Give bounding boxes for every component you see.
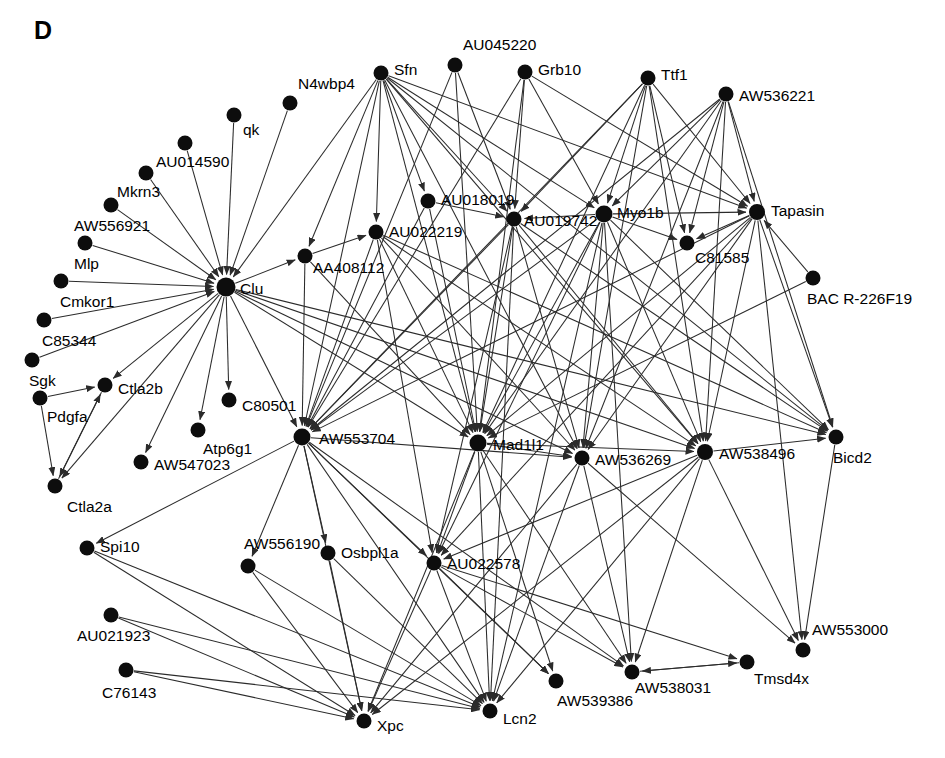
graph-node[interactable] [719, 87, 734, 102]
graph-node-label: Tapasin [771, 202, 824, 219]
graph-node[interactable] [740, 655, 755, 670]
graph-edge [584, 466, 630, 662]
graph-node[interactable] [222, 393, 237, 408]
graph-node-label: AW556190 [244, 535, 320, 552]
graph-node-label: AW536269 [595, 451, 671, 468]
graph-node-label: AW536221 [739, 87, 815, 104]
graph-node[interactable] [134, 455, 149, 470]
graph-node-label: N4wbp4 [298, 75, 355, 92]
graph-edge [134, 672, 354, 719]
graph-node[interactable] [25, 353, 40, 368]
graph-edge [235, 291, 573, 453]
graph-node[interactable] [369, 225, 384, 240]
graph-edge [709, 460, 799, 641]
graph-edge [235, 292, 469, 437]
graph-edge [697, 215, 750, 238]
graph-node[interactable] [119, 663, 134, 678]
graph-edge [226, 297, 228, 390]
graph-node[interactable] [749, 204, 765, 220]
graph-node[interactable] [321, 546, 336, 561]
graph-edge [368, 570, 431, 711]
graph-node[interactable] [191, 423, 206, 438]
graph-node[interactable] [54, 274, 69, 289]
graph-edge [383, 81, 475, 432]
graph-edge [253, 572, 358, 712]
graph-node[interactable] [806, 271, 821, 286]
graph-node[interactable] [37, 313, 52, 328]
graph-edge [302, 264, 305, 426]
graph-edge [69, 281, 214, 286]
graph-node[interactable] [298, 249, 313, 264]
graph-node-label: AW539386 [557, 692, 633, 709]
graph-edge [388, 77, 595, 208]
graph-node[interactable] [283, 96, 298, 111]
graph-edge [381, 238, 575, 450]
graph-edge [642, 663, 739, 671]
graph-node[interactable] [448, 58, 463, 73]
graph-edge [236, 289, 826, 434]
graph-node[interactable] [483, 704, 498, 719]
graph-edge [372, 457, 698, 714]
graph-edge [488, 282, 806, 438]
graph-node[interactable] [697, 444, 713, 460]
graph-edge [758, 220, 802, 639]
graph-node-label: Ctla2a [67, 498, 112, 515]
graph-node[interactable] [625, 665, 640, 680]
graph-node[interactable] [139, 166, 154, 181]
graph-edge [371, 464, 577, 713]
graph-edge [233, 79, 376, 276]
graph-node[interactable] [549, 674, 564, 689]
graph-node[interactable] [829, 430, 844, 445]
graph-node-label: AU019742 [524, 212, 597, 229]
graph-node[interactable] [596, 206, 613, 223]
graph-node-label: Ctla2b [118, 380, 163, 397]
graph-node[interactable] [178, 136, 193, 151]
graph-node[interactable] [507, 212, 522, 227]
graph-node[interactable] [796, 643, 811, 658]
graph-node[interactable] [470, 435, 487, 452]
graph-edge [805, 445, 835, 640]
graph-node[interactable] [227, 108, 242, 123]
graph-node[interactable] [241, 559, 256, 574]
graph-edge [307, 208, 424, 427]
graph-node[interactable] [427, 556, 442, 571]
graph-node-label: AU018019 [441, 191, 514, 208]
graph-edge [479, 80, 524, 432]
graph-node[interactable] [104, 608, 119, 623]
graph-node[interactable] [680, 236, 695, 251]
graph-node-label: Pdgfa [47, 408, 88, 425]
graph-node[interactable] [374, 66, 389, 81]
graph-edge [379, 239, 473, 432]
graph-node[interactable] [98, 378, 113, 393]
graph-node-label: AW553704 [319, 430, 395, 447]
graph-node[interactable] [217, 278, 236, 297]
graph-node[interactable] [575, 451, 590, 466]
graph-node-label: AU021923 [77, 627, 150, 644]
graph-node-label: C80501 [242, 397, 296, 414]
network-graph-canvas: CluSfnAU045220Grb10Ttf1AW536221N4wbp4qkA… [0, 0, 945, 758]
graph-node[interactable] [78, 236, 93, 251]
graph-node[interactable] [48, 479, 63, 494]
graph-edge [441, 218, 751, 555]
graph-node[interactable] [80, 541, 95, 556]
graph-node-label: Mkrn3 [117, 183, 160, 200]
network-figure-panel: D CluSfnAU045220Grb10Ttf1AW536221N4wbp4q… [0, 0, 945, 758]
graph-edge [307, 444, 484, 702]
graph-node[interactable] [518, 65, 533, 80]
graph-node-label: Mad1l1 [493, 436, 544, 453]
graph-edge [255, 570, 481, 705]
graph-node[interactable] [421, 194, 436, 209]
graph-node-label: C85344 [42, 332, 97, 349]
graph-node[interactable] [33, 391, 48, 406]
graph-node-label: Grb10 [538, 61, 581, 78]
graph-node-label: Sgk [29, 372, 56, 389]
graph-node[interactable] [641, 71, 656, 86]
graph-node[interactable] [357, 714, 372, 729]
graph-node-label: AU022578 [447, 555, 520, 572]
graph-node-label: Osbpl1a [341, 544, 399, 561]
graph-node[interactable] [294, 429, 311, 446]
graph-edge [386, 79, 698, 444]
graph-node-label: BAC R-226F19 [807, 290, 912, 307]
graph-edge [760, 220, 833, 427]
graph-node-label: Atp6g1 [203, 440, 252, 457]
